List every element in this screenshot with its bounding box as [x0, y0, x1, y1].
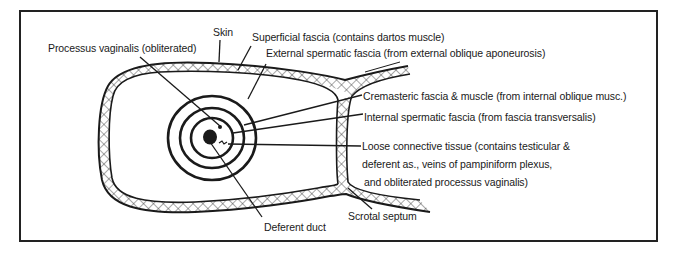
label-loose-connective-tissue-line2: deferent as., veins of pampiniform plexu…	[362, 158, 552, 170]
label-loose-connective-tissue-line1: Loose connective tissue (contains testic…	[362, 140, 570, 152]
scrotal-wall	[99, 62, 430, 213]
label-loose-connective-tissue-line3: and obliterated processus vaginalis)	[364, 176, 528, 188]
label-skin: Skin	[213, 26, 233, 38]
spermatic-cord	[168, 96, 256, 180]
label-external-spermatic-fascia: External spermatic fascia (from external…	[266, 47, 545, 59]
label-cremasteric-fascia: Cremasteric fascia & muscle (from intern…	[363, 90, 626, 102]
label-superficial-fascia: Superficial fascia (contains dartos musc…	[252, 31, 444, 43]
label-deferent-duct: Deferent duct	[264, 221, 326, 233]
label-internal-spermatic-fascia: Internal spermatic fascia (from fascia t…	[364, 111, 596, 123]
label-scrotal-septum: Scrotal septum	[348, 210, 417, 222]
label-processus-vaginalis: Processus vaginalis (obliterated)	[48, 42, 196, 54]
